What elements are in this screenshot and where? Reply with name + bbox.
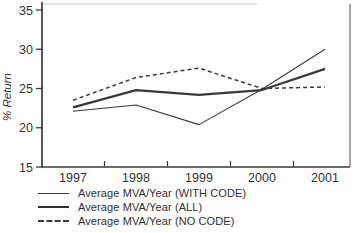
legend-line-solid-thin-icon — [38, 193, 69, 194]
legend-item: Average MVA/Year (WITH CODE) — [38, 186, 246, 200]
x-tick-label: 1999 — [185, 171, 213, 185]
series-line-0 — [73, 49, 325, 124]
x-tick-label: 2001 — [311, 171, 339, 185]
y-tick-label: 15 — [19, 161, 33, 175]
y-tick-label: 20 — [19, 121, 33, 135]
y-tick-label: 30 — [19, 43, 33, 57]
legend-label: Average MVA/Year (NO CODE) — [78, 215, 234, 227]
legend-label: Average MVA/Year (ALL) — [78, 201, 202, 213]
line-chart-figure: 353025201519971998199920002001 % Return … — [0, 0, 354, 233]
x-tick-label: 2000 — [248, 171, 276, 185]
legend-label: Average MVA/Year (WITH CODE) — [78, 187, 246, 199]
legend-item: Average MVA/Year (NO CODE) — [38, 214, 246, 228]
x-tick-label: 1997 — [59, 171, 87, 185]
y-axis-label: % Return — [1, 73, 13, 121]
chart-legend: Average MVA/Year (WITH CODE) Average MVA… — [38, 186, 246, 228]
plot-area: 353025201519971998199920002001 — [19, 2, 350, 185]
y-tick-label: 35 — [19, 4, 33, 18]
series-line-1 — [73, 69, 325, 107]
legend-line-solid-thick-icon — [38, 206, 69, 208]
y-tick-label: 25 — [19, 82, 33, 96]
x-tick-label: 1998 — [122, 171, 150, 185]
legend-line-dashed-icon — [38, 220, 69, 222]
legend-item: Average MVA/Year (ALL) — [38, 200, 246, 214]
